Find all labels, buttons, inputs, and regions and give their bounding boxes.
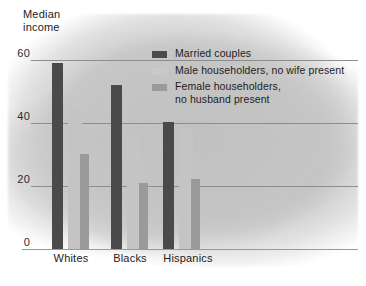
legend-label-female-householder: Female householders, no husband present — [175, 80, 281, 105]
bar-whites-married — [52, 63, 63, 249]
legend-item-male-householder: Male householders, no wife present — [152, 64, 344, 77]
bar-hispanics-female-householder — [191, 179, 200, 249]
legend-label-male-householder: Male householders, no wife present — [175, 64, 344, 77]
bar-whites-female-householder — [80, 154, 89, 249]
bar-hispanics-married — [163, 122, 174, 249]
legend-item-female-householder: Female householders, no husband present — [152, 80, 344, 105]
chart-legend: Married couples Male householders, no wi… — [152, 47, 344, 109]
bar-blacks-female-householder — [139, 183, 148, 249]
axis-baseline-0 — [22, 249, 358, 250]
bar-blacks-married — [111, 85, 122, 249]
x-tick-label-blacks: Blacks — [100, 252, 160, 264]
legend-swatch-married — [152, 51, 167, 58]
x-tick-label-hispanics: Hispanics — [152, 252, 224, 264]
legend-swatch-male-householder — [152, 68, 167, 75]
x-tick-label-whites: Whites — [41, 252, 101, 264]
bars-layer — [0, 0, 366, 249]
plot-area: Median income 60 40 20 0 Whit — [0, 0, 366, 286]
legend-item-married: Married couples — [152, 47, 344, 60]
chart-figure: Median income 60 40 20 0 Whit — [0, 0, 366, 286]
legend-label-married: Married couples — [175, 47, 251, 60]
legend-swatch-female-householder — [152, 84, 167, 91]
